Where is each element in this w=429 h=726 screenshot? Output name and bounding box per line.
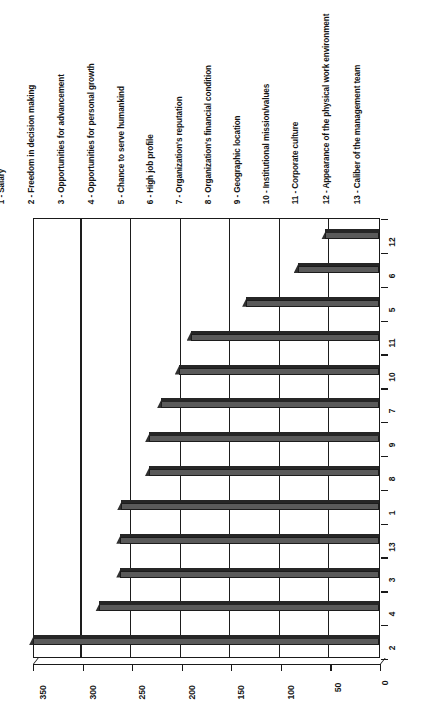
bar-top: [99, 601, 379, 604]
category-axis: 12651110798113342: [381, 218, 429, 660]
legend-item: 4 - Opportunities for personal growth: [88, 63, 96, 204]
category-tick-label: 11: [387, 339, 397, 348]
category-tick-label: 1: [387, 510, 397, 515]
category-tick: [381, 219, 388, 220]
bar-8: [145, 466, 379, 476]
legend-item: 8 - Organization's financial condition: [205, 65, 213, 204]
bar-face: [120, 537, 379, 544]
bar-face: [298, 266, 379, 273]
value-tick: [231, 664, 232, 671]
value-tick-label: 50: [333, 683, 343, 693]
category-tick: [381, 625, 388, 626]
bar-face: [191, 334, 379, 341]
bar-top: [179, 365, 379, 368]
category-tick: [381, 456, 388, 457]
value-axis: 350300250200150100500: [33, 664, 381, 726]
category-tick: [381, 490, 388, 491]
value-tick: [182, 664, 183, 671]
legend-item: 13 - Caliber of the management team: [354, 65, 362, 204]
value-tick-label: 300: [88, 685, 98, 699]
value-tick: [33, 664, 34, 671]
value-tick: [281, 664, 282, 671]
legend-item: 2 - Freedom in decision making: [28, 85, 36, 204]
bar-9: [145, 432, 379, 442]
category-tick-label: 5: [387, 307, 397, 312]
bar-face: [149, 435, 379, 442]
legend-item: 12 - Appearance of the physical work env…: [323, 13, 331, 204]
value-tick: [83, 664, 84, 671]
category-tick-label: 2: [387, 646, 397, 651]
category-tick: [381, 354, 388, 355]
legend-item: 3 - Opportunities for advancement: [58, 74, 66, 204]
category-tick: [381, 388, 388, 389]
category-tick: [381, 253, 388, 254]
value-tick-label: 0: [380, 680, 390, 685]
value-tick-label: 150: [236, 685, 246, 699]
value-axis-line: [33, 664, 381, 665]
value-tick-label: 100: [286, 685, 296, 699]
bar-face: [121, 503, 379, 510]
category-tick: [381, 591, 388, 592]
category-tick: [381, 321, 388, 322]
value-tick-label: 250: [137, 685, 147, 699]
legend-item: 9 - Geographic location: [234, 115, 242, 204]
legend-item: 11 - Corporate culture: [292, 122, 300, 204]
bar-top: [149, 466, 379, 469]
bar-face: [120, 571, 379, 578]
category-tick: [381, 557, 388, 558]
category-tick-label: 7: [387, 409, 397, 414]
plot-frame: [33, 218, 380, 658]
bar-top: [149, 432, 379, 435]
chart-plot-area: 12651110798113342 350300250200150100500: [0, 212, 429, 726]
gridline: [130, 219, 131, 657]
bar-1: [117, 500, 379, 510]
bar-face: [161, 401, 379, 408]
bar-top: [246, 297, 379, 300]
bar-face: [179, 368, 379, 375]
category-tick-label: 6: [387, 273, 397, 278]
value-tick: [380, 664, 381, 671]
value-tick-label: 350: [38, 685, 48, 699]
category-tick: [381, 422, 388, 423]
category-tick-label: 13: [387, 542, 397, 551]
value-tick: [132, 664, 133, 671]
category-tick-label: 4: [387, 612, 397, 617]
bar-5: [242, 297, 379, 307]
category-tick-label: 3: [387, 578, 397, 583]
bar-3: [116, 568, 379, 578]
bar-top: [120, 534, 379, 537]
bar-12: [321, 229, 379, 239]
gridline: [80, 219, 81, 657]
category-tick-label: 9: [387, 443, 397, 448]
bar-face: [99, 604, 379, 611]
bar-top: [161, 398, 379, 401]
category-tick-label: 8: [387, 477, 397, 482]
legend-item: 1 - Salary: [0, 169, 6, 204]
legend-item: 6 - High job profile: [147, 134, 155, 204]
bar-6: [294, 263, 379, 273]
bar-2: [29, 635, 379, 645]
bar-top: [191, 331, 379, 334]
bar-13: [116, 534, 379, 544]
bar-top: [33, 635, 379, 638]
legend-item: 7 - Organization's reputation: [176, 96, 184, 204]
bar-10: [175, 365, 379, 375]
category-tick-label: 10: [387, 373, 397, 382]
bar-11: [187, 331, 379, 341]
bar-top: [298, 263, 379, 266]
bar-face: [325, 232, 379, 239]
legend-item: 5 - Chance to serve humankind: [118, 86, 126, 204]
category-tick: [381, 287, 388, 288]
bar-face: [149, 469, 379, 476]
value-tick-label: 200: [187, 685, 197, 699]
legend-item: 10 - Institutional mission/values: [263, 84, 271, 204]
bar-top: [325, 229, 379, 232]
bar-top: [121, 500, 379, 503]
bar-7: [157, 398, 379, 408]
bar-4: [95, 601, 379, 611]
bar-top: [120, 568, 379, 571]
category-tick: [381, 524, 388, 525]
bar-face: [33, 638, 379, 645]
category-tick-label: 12: [387, 237, 397, 246]
bar-face: [246, 300, 379, 307]
